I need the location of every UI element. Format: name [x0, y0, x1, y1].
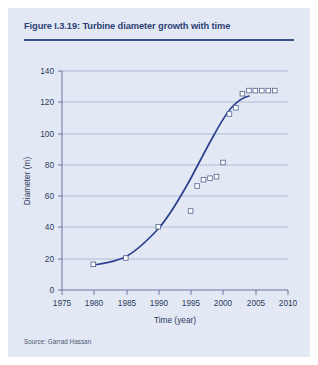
x-tick-label: 1990	[150, 298, 169, 308]
data-point	[221, 160, 226, 165]
x-tick-label: 1995	[182, 298, 201, 308]
y-axis-tick-labels: 140 120 100 80 60 40 20 0	[40, 66, 54, 295]
source-note: Source: Garrad Hassan	[24, 338, 91, 345]
data-markers	[91, 88, 277, 266]
data-point	[188, 209, 193, 214]
chart-plot-area: 140 120 100 80 60 40 20 0 1975 1980 1985…	[8, 8, 310, 357]
trend-line	[94, 96, 249, 265]
y-tick-label: 100	[40, 129, 54, 139]
x-axis-ticks	[62, 290, 288, 295]
data-point	[260, 88, 265, 93]
data-point	[208, 176, 213, 181]
data-point	[253, 88, 258, 93]
data-point	[234, 106, 239, 111]
x-axis-title: Time (year)	[154, 315, 196, 325]
data-point	[227, 112, 232, 117]
data-point	[201, 177, 206, 182]
data-point	[240, 91, 245, 96]
x-tick-label: 2010	[279, 298, 298, 308]
y-tick-label: 20	[45, 254, 55, 264]
data-point	[195, 184, 200, 189]
data-point	[124, 256, 129, 261]
axis-lines	[62, 71, 288, 290]
y-tick-label: 140	[40, 66, 54, 76]
y-tick-label: 40	[45, 222, 55, 232]
y-tick-label: 0	[49, 285, 54, 295]
data-point	[266, 88, 271, 93]
y-tick-label: 60	[45, 191, 55, 201]
x-axis-tick-labels: 1975 1980 1985 1990 1995 2000 2005 2010	[53, 298, 298, 308]
data-point	[247, 88, 252, 93]
y-axis-title: Diameter (m)	[22, 157, 32, 206]
x-tick-label: 1975	[53, 298, 72, 308]
x-tick-label: 1985	[118, 298, 137, 308]
data-point	[91, 262, 96, 267]
y-tick-label: 80	[45, 160, 55, 170]
x-tick-label: 2000	[214, 298, 233, 308]
gridlines	[62, 71, 288, 259]
data-point	[273, 88, 278, 93]
x-tick-label: 2005	[247, 298, 266, 308]
x-tick-label: 1980	[85, 298, 104, 308]
y-tick-label: 120	[40, 97, 54, 107]
figure-card: Figure I.3.19: Turbine diameter growth w…	[8, 8, 310, 357]
data-point	[214, 174, 219, 179]
y-axis-ticks	[58, 71, 62, 290]
data-point	[156, 224, 161, 229]
